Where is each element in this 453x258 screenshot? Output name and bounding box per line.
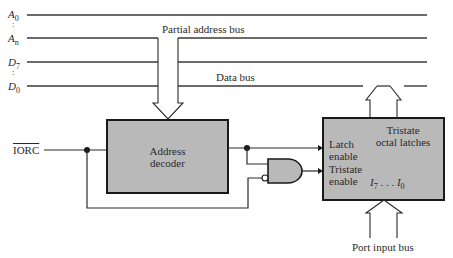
port-input-bus-label: Port input bus <box>352 241 414 253</box>
and-gate <box>268 159 302 183</box>
decoder-to-gate-line <box>247 148 268 164</box>
latch-title-line1: Tristate <box>363 124 443 136</box>
label-address-dots: : <box>12 18 15 30</box>
latch-title-line2: octal latches <box>363 136 443 148</box>
latch-enable-line1: Latch <box>329 138 358 150</box>
partial-address-bus-arrow <box>153 38 183 119</box>
port-input-bus-arrow <box>366 200 402 238</box>
address-decoder-label: Address decoder <box>107 145 228 169</box>
label-d0: D0 <box>8 80 20 94</box>
label-data-dots: : <box>12 66 15 78</box>
tristate-enable-label: Tristate enable <box>329 163 362 187</box>
partial-address-bus-label: Partial address bus <box>162 23 244 35</box>
address-decoder-line2: decoder <box>107 157 228 169</box>
latch-input-range: I7 . . . I0 <box>370 176 405 190</box>
data-bus-arrow <box>366 86 401 118</box>
latch-enable-line2: enable <box>329 150 358 162</box>
tristate-enable-line2: enable <box>329 175 362 187</box>
tristate-enable-line1: Tristate <box>329 163 362 175</box>
latch-title: Tristate octal latches <box>363 124 443 148</box>
diagram-canvas: A0 : An D7 : D0 Partial address bus Data… <box>0 0 453 258</box>
address-decoder-line1: Address <box>107 145 228 157</box>
label-an: An <box>8 32 19 46</box>
iorc-label: IORC <box>13 144 39 156</box>
latch-enable-label: Latch enable <box>329 138 358 162</box>
data-bus-label: Data bus <box>216 71 255 83</box>
inverter-bubble <box>262 175 268 181</box>
